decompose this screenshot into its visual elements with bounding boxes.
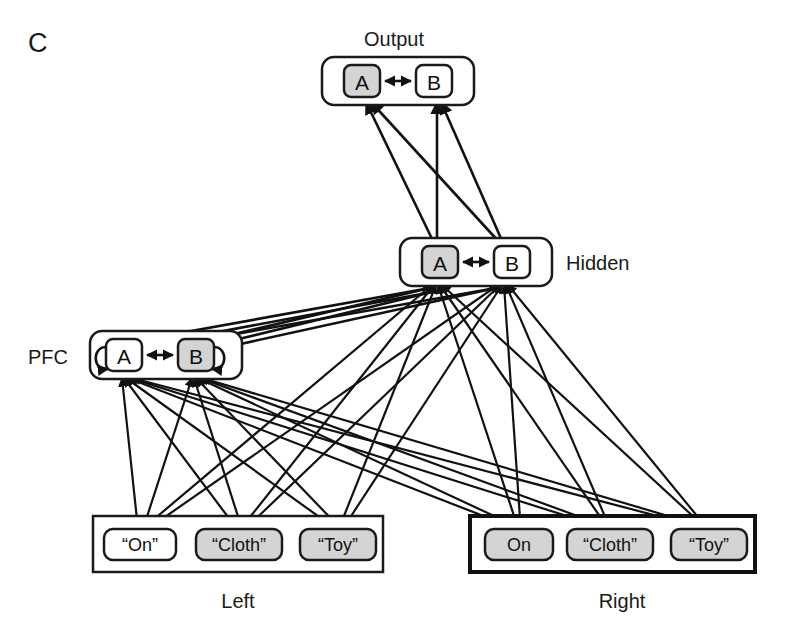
hidden-layer: A B Hidden <box>400 238 629 286</box>
pfc-node-b-label: B <box>189 345 203 368</box>
left-group-label: Left <box>221 590 255 612</box>
right-input-toy-label: “Toy” <box>689 535 729 555</box>
neural-network-diagram: Output A B A B Hidden PFC A <box>0 0 789 637</box>
pfc-layer-label: PFC <box>28 346 68 368</box>
pfc-layer: PFC A B <box>28 331 242 379</box>
connections-hidden-to-output <box>366 102 503 243</box>
left-input-toy-label: “Toy” <box>318 535 358 555</box>
input-group-right: On “Cloth” “Toy” Right <box>470 516 755 612</box>
right-input-cloth-label: “Cloth” <box>583 535 637 555</box>
left-input-cloth-label: “Cloth” <box>212 535 266 555</box>
panel-label: C <box>28 28 48 58</box>
right-group-label: Right <box>599 590 646 612</box>
output-layer-label: Output <box>364 28 424 50</box>
output-node-b-label: B <box>427 71 441 94</box>
output-layer: Output A B <box>322 28 474 105</box>
input-group-left: “On” “Cloth” “Toy” Left <box>93 516 383 612</box>
hidden-node-b-label: B <box>505 252 519 275</box>
hidden-node-a-label: A <box>433 252 447 275</box>
left-input-on-label: “On” <box>122 535 158 555</box>
hidden-layer-label: Hidden <box>566 252 629 274</box>
right-input-on-label: On <box>507 535 531 555</box>
output-node-a-label: A <box>355 71 369 94</box>
pfc-node-a-label: A <box>117 345 131 368</box>
